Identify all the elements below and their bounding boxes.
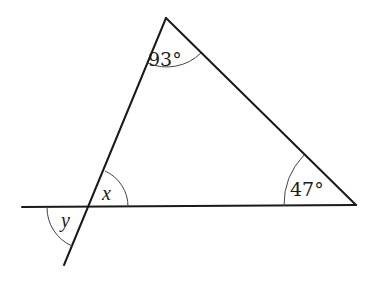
top-angle-label: 93° xyxy=(148,48,182,70)
baseline xyxy=(22,205,356,207)
right-side-line xyxy=(166,18,356,205)
y-angle-label: y xyxy=(59,209,70,232)
x-angle-label: x xyxy=(101,182,111,204)
triangle-diagram: 93° 47° x y xyxy=(0,0,373,282)
right-angle-label: 47° xyxy=(290,178,324,200)
